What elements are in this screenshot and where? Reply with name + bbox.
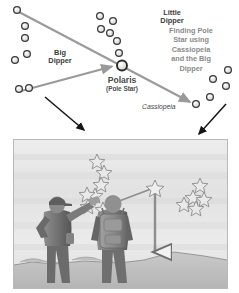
star-map-diagram: Little Dipper Big Dipper Polaris (Pole S… <box>0 0 239 128</box>
cassiopeia-label: Cassiopeia <box>142 103 176 110</box>
diagram-title: Finding Pole Star using Cassiopeia and t… <box>155 26 227 73</box>
little-dipper-label: Little Dipper <box>150 9 194 24</box>
polaris-label: Polaris <box>93 76 151 85</box>
big-dipper-stars <box>12 7 33 93</box>
big-dipper-label: Big Dipper <box>40 49 80 64</box>
right-callout-arrow <box>199 104 226 134</box>
left-callout-arrow <box>45 97 84 130</box>
polaris-star <box>117 61 127 71</box>
little-dipper-stars <box>97 13 123 57</box>
star-chart-page: Little Dipper Big Dipper Polaris (Pole S… <box>0 0 239 293</box>
night-sky-illustration <box>13 139 228 289</box>
polaris-sublabel: (Pole Star) <box>90 86 154 93</box>
illustration-svg <box>14 140 227 288</box>
